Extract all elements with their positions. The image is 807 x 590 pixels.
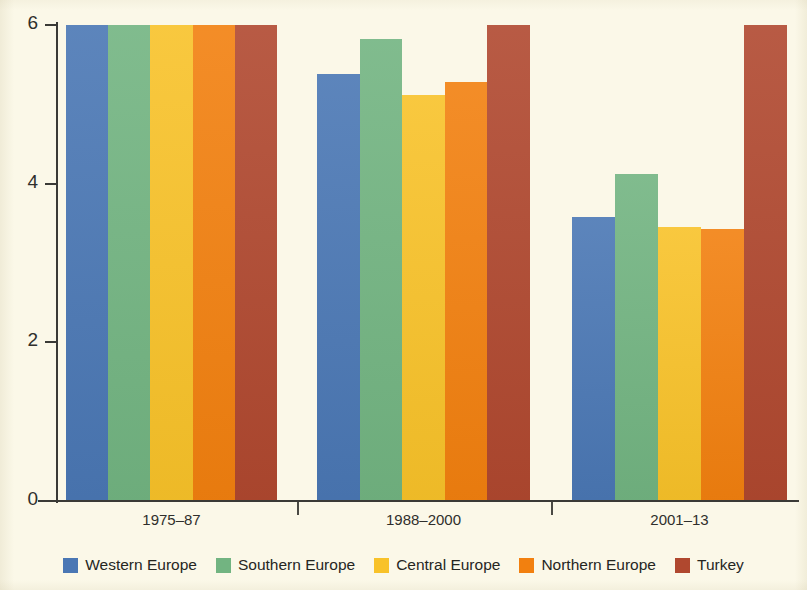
bar-shading <box>445 82 488 501</box>
bar-shading <box>615 174 658 501</box>
plot-area <box>57 22 799 501</box>
bar <box>66 25 108 501</box>
chart-figure: 1975–871988–20002001–13 Western EuropeSo… <box>0 0 807 590</box>
y-axis-line <box>56 22 58 503</box>
legend-item[interactable]: Turkey <box>675 556 744 574</box>
legend-label: Southern Europe <box>238 556 355 574</box>
bar-shading <box>572 217 615 501</box>
bar-shading <box>402 95 445 501</box>
bar <box>744 25 787 501</box>
bar-shading <box>487 25 530 501</box>
legend-item[interactable]: Northern Europe <box>519 556 656 574</box>
y-axis-tick <box>45 183 57 185</box>
bar-shading <box>235 25 277 501</box>
chart-legend: Western EuropeSouthern EuropeCentral Eur… <box>0 556 807 574</box>
bar-shading <box>193 25 235 501</box>
x-axis-line <box>38 500 799 502</box>
legend-label: Central Europe <box>396 556 500 574</box>
bar-shading <box>658 227 701 501</box>
legend-item[interactable]: Southern Europe <box>216 556 355 574</box>
y-axis-tick <box>45 24 57 26</box>
legend-color-swatch <box>675 558 690 573</box>
y-axis-tick-label: 6 <box>0 12 38 34</box>
bar-shading <box>701 229 744 501</box>
legend-item[interactable]: Western Europe <box>63 556 197 574</box>
legend-label: Western Europe <box>85 556 197 574</box>
bar <box>615 174 658 501</box>
bar <box>235 25 277 501</box>
bar <box>150 25 192 501</box>
bar <box>445 82 488 501</box>
bar <box>360 39 403 501</box>
legend-color-swatch <box>519 558 534 573</box>
bar-shading <box>317 74 360 501</box>
legend-color-swatch <box>216 558 231 573</box>
bar-shading <box>66 25 108 501</box>
legend-color-swatch <box>63 558 78 573</box>
x-axis-group-separator <box>297 502 299 515</box>
bar <box>572 217 615 501</box>
bar-shading <box>360 39 403 501</box>
x-axis-category-label: 2001–13 <box>600 511 760 528</box>
y-axis-tick-label: 0 <box>0 488 38 510</box>
bar <box>701 229 744 501</box>
y-axis-tick-label: 4 <box>0 171 38 193</box>
x-axis-group-separator <box>551 502 553 515</box>
bar <box>402 95 445 501</box>
bar <box>193 25 235 501</box>
legend-label: Turkey <box>697 556 744 574</box>
legend-label: Northern Europe <box>541 556 656 574</box>
y-axis-tick-label: 2 <box>0 329 38 351</box>
bar-shading <box>108 25 150 501</box>
y-axis-tick <box>45 341 57 343</box>
x-axis-category-label: 1975–87 <box>92 511 252 528</box>
bar-shading <box>744 25 787 501</box>
bar-shading <box>150 25 192 501</box>
legend-item[interactable]: Central Europe <box>374 556 500 574</box>
x-axis-category-label: 1988–2000 <box>344 511 504 528</box>
bar <box>658 227 701 501</box>
bar <box>317 74 360 501</box>
bar <box>487 25 530 501</box>
y-axis-tick <box>45 500 57 502</box>
bar <box>108 25 150 501</box>
legend-color-swatch <box>374 558 389 573</box>
